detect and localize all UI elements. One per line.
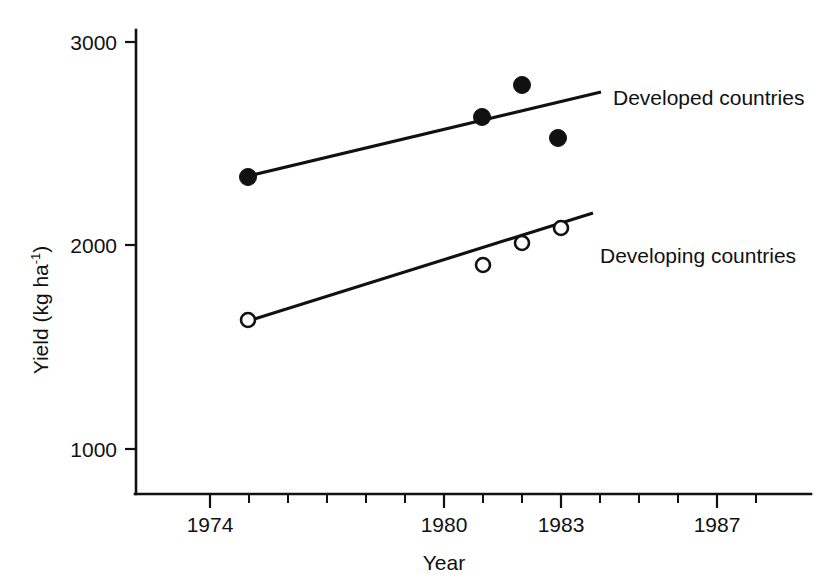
y-tick-label-3000: 3000 (70, 31, 117, 54)
legend-group: Developed countries Developing countries (600, 86, 804, 267)
series-developed-countries (240, 77, 602, 186)
x-tick-label-1974: 1974 (187, 513, 234, 536)
y-axis-title-group: Yield (kg ha-1) (28, 246, 52, 375)
x-tick-label-1980: 1980 (421, 513, 468, 536)
legend-label-developed: Developed countries (613, 86, 804, 109)
data-point-developed (240, 169, 257, 186)
data-point-developed (514, 77, 531, 94)
data-point-developing (241, 313, 255, 327)
data-point-developed (474, 109, 491, 126)
x-axis-title: Year (423, 551, 465, 574)
y-axis-title-superscript: -1 (28, 253, 43, 265)
y-axis-title-tail: ) (29, 246, 52, 253)
y-tick-label-2000: 2000 (70, 234, 117, 257)
y-ticks-group (125, 42, 136, 449)
y-axis-title-base: Yield (kg ha (29, 264, 52, 374)
series-developing-countries (241, 213, 593, 327)
data-point-developing (554, 221, 568, 235)
data-point-developing (515, 236, 529, 250)
x-tick-labels-group: 1974 1980 1983 1987 (187, 513, 741, 536)
data-point-developed (550, 130, 567, 147)
x-tick-label-1987: 1987 (694, 513, 741, 536)
y-tick-label-1000: 1000 (70, 438, 117, 461)
legend-label-developing: Developing countries (600, 244, 796, 267)
trend-line-developed (248, 92, 601, 176)
x-tick-label-1983: 1983 (538, 513, 585, 536)
yield-vs-year-chart: 3000 2000 1000 Yield (kg ha-1) 1974 1980… (0, 0, 827, 585)
data-point-developing (476, 258, 490, 272)
x-minor-ticks-group (249, 494, 756, 503)
trend-line-developing (248, 213, 593, 321)
y-tick-labels-group: 3000 2000 1000 (70, 31, 117, 461)
y-axis-title: Yield (kg ha-1) (28, 246, 52, 375)
x-major-ticks-group (210, 494, 717, 508)
